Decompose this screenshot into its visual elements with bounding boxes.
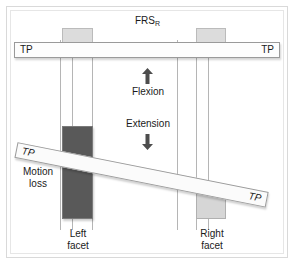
figure-title-text: FRS	[135, 15, 155, 26]
arrow-up-icon	[142, 68, 153, 84]
left-facet-label: Left facet	[52, 228, 104, 251]
tp-label-diagonal-right: TP	[248, 191, 262, 203]
tp-label-diagonal-left: TP	[21, 146, 35, 158]
tp-label-left: TP	[20, 45, 33, 55]
extension-label: Extension	[112, 118, 184, 130]
transverse-process-bar-horizontal: TP TP	[14, 42, 280, 58]
right-facet-line-2: facet	[201, 240, 223, 251]
left-facet-line-2: facet	[67, 240, 89, 251]
right-facet-line-1: Right	[200, 228, 223, 239]
right-inner-post-line	[177, 40, 178, 230]
left-facet-line-1: Left	[70, 228, 87, 239]
figure-title-subscript: R	[155, 20, 160, 27]
figure-title: FRSR	[0, 15, 295, 27]
motion-loss-line-2: loss	[29, 178, 47, 189]
motion-loss-line-1: Motion	[23, 166, 53, 177]
vertebral-motion-diagram: FRSR TP TP Flexion Extension TP TP Motio…	[0, 0, 295, 265]
right-facet-label: Right facet	[186, 228, 238, 251]
flexion-label: Flexion	[117, 86, 179, 98]
arrow-down-icon	[142, 134, 153, 150]
tp-label-right: TP	[261, 45, 274, 55]
motion-loss-label: Motion loss	[14, 166, 62, 189]
